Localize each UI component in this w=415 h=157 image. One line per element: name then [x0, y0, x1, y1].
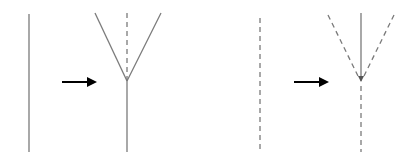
right-panel [260, 13, 394, 152]
left-panel [29, 13, 161, 152]
branch-left [95, 13, 127, 81]
branch-right-dashed [364, 15, 394, 76]
branch-right [127, 13, 161, 81]
diagram-canvas [0, 0, 415, 157]
branch-left-dashed [328, 15, 358, 76]
